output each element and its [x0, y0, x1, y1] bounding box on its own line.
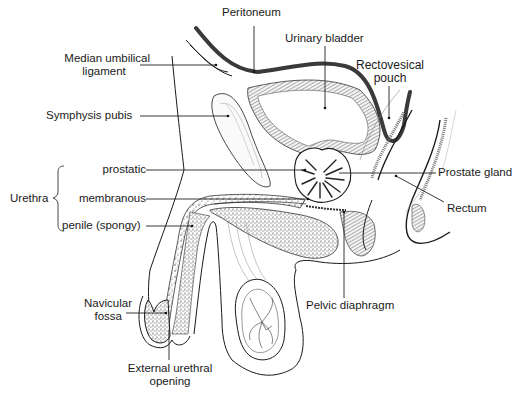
label-symphysis-pubis: Symphysis pubis — [46, 109, 132, 122]
label-rectum: Rectum — [447, 202, 487, 215]
label-urethra-penile-spongy: penile (spongy) — [62, 219, 141, 232]
label-peritoneum: Peritoneum — [222, 6, 281, 19]
label-urinary-bladder: Urinary bladder — [285, 32, 364, 45]
label-median-umbilical-ligament-line2: ligament — [80, 65, 128, 78]
label-urethra-prostatic: prostatic — [70, 163, 146, 176]
label-external-urethral-opening-line1: External urethral — [118, 362, 222, 375]
label-external-urethral-opening-line2: opening — [118, 375, 222, 388]
label-navicular-fossa-line2: fossa — [70, 310, 122, 323]
urinary-bladder — [248, 80, 380, 155]
label-pelvic-diaphragm: Pelvic diaphragm — [306, 299, 394, 312]
label-urethra: Urethra — [10, 192, 48, 205]
label-median-umbilical-ligament-line1: Median umbilical — [54, 52, 150, 65]
label-prostate-gland: Prostate gland — [438, 166, 512, 179]
label-navicular-fossa-line1: Navicular — [70, 297, 132, 310]
prostate-gland — [295, 148, 351, 202]
label-urethra-membranous: membranous — [60, 192, 146, 205]
label-rectovesical-pouch-line2: pouch — [352, 72, 428, 85]
